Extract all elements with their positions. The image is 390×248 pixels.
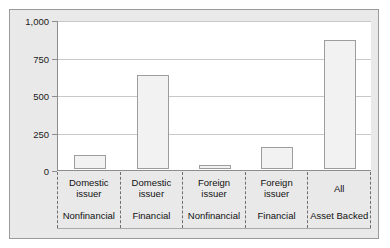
category-sector-label: Asset Backed	[308, 203, 370, 228]
label-table-bottom-border	[57, 228, 371, 229]
y-axis-tick	[52, 59, 57, 60]
category-sector-label: Financial	[246, 203, 308, 228]
bar	[74, 155, 106, 169]
category-label-cell: AllAsset Backed	[307, 172, 371, 228]
y-axis-tick	[52, 134, 57, 135]
y-axis-tick	[52, 96, 57, 97]
category-issuer-label: Foreignissuer	[246, 172, 308, 203]
category-issuer-label: Domesticissuer	[121, 172, 183, 203]
bar-slot	[59, 21, 121, 169]
category-label-cell: ForeignissuerNonfinancial	[182, 172, 245, 228]
bar-slot	[121, 21, 183, 169]
category-label-table: DomesticissuerNonfinancialDomesticissuer…	[57, 172, 371, 228]
category-issuer-label: All	[308, 172, 370, 203]
plot-area: 02505007501,000	[57, 21, 371, 171]
y-axis-tick-label: 250	[33, 128, 49, 139]
bar	[324, 40, 356, 169]
y-axis-tick	[52, 21, 57, 22]
bar-slot	[309, 21, 371, 169]
category-sector-label: Nonfinancial	[183, 203, 245, 228]
bar-slot	[184, 21, 246, 169]
y-axis-tick-label: 1,000	[25, 16, 49, 27]
category-label-cell: DomesticissuerNonfinancial	[57, 172, 120, 228]
category-sector-label: Nonfinancial	[58, 203, 120, 228]
category-label-cell: DomesticissuerFinancial	[120, 172, 183, 228]
chart-figure: 02505007501,000 DomesticissuerNonfinanci…	[9, 9, 379, 239]
category-label-cell: ForeignissuerFinancial	[245, 172, 308, 228]
bar-series	[59, 21, 371, 169]
category-issuer-label: Domesticissuer	[58, 172, 120, 203]
bar	[199, 165, 231, 169]
category-sector-label: Financial	[121, 203, 183, 228]
y-axis-tick-label: 500	[33, 91, 49, 102]
bar-slot	[246, 21, 308, 169]
y-axis-tick-label: 750	[33, 53, 49, 64]
bar	[137, 75, 169, 170]
category-issuer-label: Foreignissuer	[183, 172, 245, 203]
bar	[261, 147, 293, 170]
y-axis-tick-label: 0	[44, 166, 49, 177]
